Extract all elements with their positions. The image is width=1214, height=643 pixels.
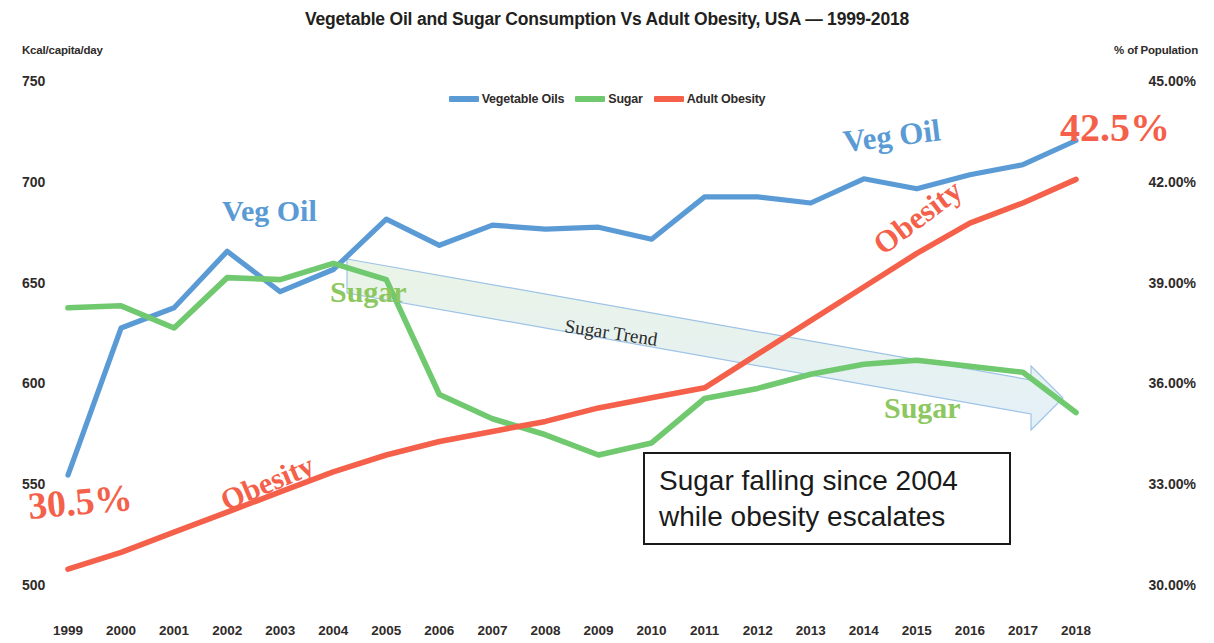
series-line-sugar [68, 263, 1076, 455]
veg-oil-label-left: Veg Oil [222, 196, 317, 226]
callout-line-2: while obesity escalates [659, 499, 1009, 535]
legend-swatch-icon [575, 96, 605, 102]
legend-swatch-icon [654, 96, 684, 102]
legend-item-sugar[interactable]: Sugar [575, 93, 642, 106]
callout-box: Sugar falling since 2004 while obesity e… [643, 452, 1011, 545]
legend-item-adult-obesity[interactable]: Adult Obesity [654, 93, 766, 106]
legend-swatch-icon [449, 96, 479, 102]
legend-label: Sugar [608, 93, 642, 106]
chart-canvas: Vegetable Oil and Sugar Consumption Vs A… [0, 0, 1214, 643]
sugar-label-left: Sugar [330, 277, 407, 307]
sugar-label-right: Sugar [884, 393, 961, 423]
legend-label: Adult Obesity [687, 93, 766, 106]
callout-line-1: Sugar falling since 2004 [659, 463, 1009, 499]
obesity-end-value: 42.5% [1060, 108, 1170, 148]
legend-item-vegetable-oils[interactable]: Vegetable Oils [449, 93, 565, 106]
legend-label: Vegetable Oils [482, 93, 565, 106]
chart-legend: Vegetable OilsSugarAdult Obesity [0, 93, 1214, 106]
obesity-start-value: 30.5% [26, 478, 133, 525]
